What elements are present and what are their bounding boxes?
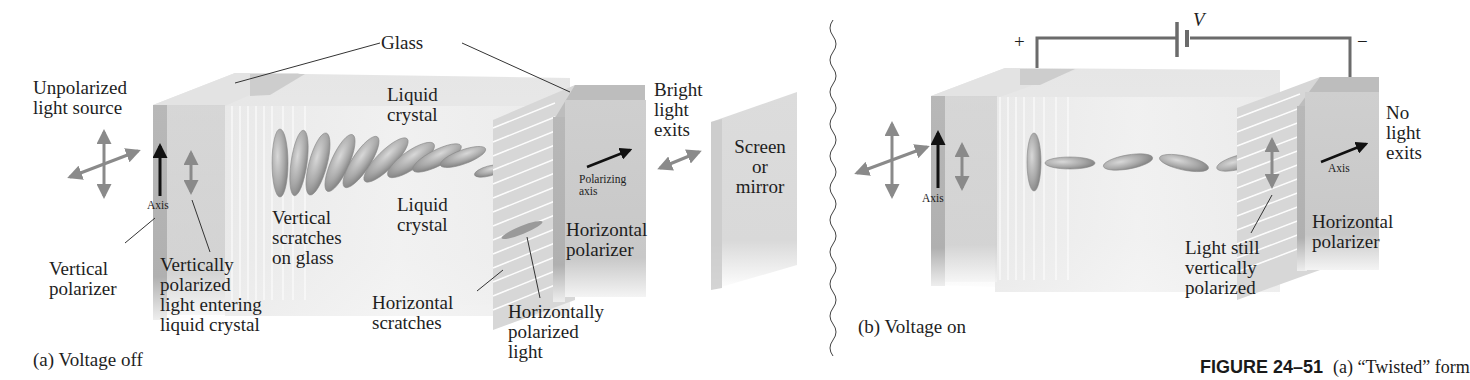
label-voltage: V	[1193, 10, 1205, 30]
figure-caption-text: (a) “Twisted” form	[1333, 357, 1470, 377]
label-plus-terminal: +	[1014, 32, 1025, 52]
vertical-polarizer-b	[931, 96, 997, 286]
label-axis-b-left: Axis	[922, 192, 944, 204]
label-glass: Glass	[381, 33, 423, 53]
label-axis-b-right: Axis	[1328, 162, 1350, 174]
label-horizontal-polarizer-a: Horizontal polarizer	[566, 220, 647, 260]
label-liquid-crystal-middle: Liquid crystal	[397, 195, 448, 235]
label-liquid-crystal-top: Liquid crystal	[387, 85, 438, 125]
figure-number: FIGURE 24–51	[1200, 357, 1323, 377]
label-unpolarized-light-source: Unpolarized light source	[33, 78, 127, 118]
label-vertical-polarizer: Vertical polarizer	[49, 259, 117, 299]
unpolarized-light-icon-b	[857, 124, 927, 196]
label-horizontal-scratches: Horizontal scratches	[372, 293, 453, 333]
label-vertically-polarized-light: Vertically polarized light entering liqu…	[160, 255, 262, 335]
unpolarized-light-icon	[70, 132, 138, 196]
bright-light-arrow-icon	[660, 152, 699, 168]
label-horizontal-polarizer-b: Horizontal polarizer	[1312, 212, 1393, 252]
label-screen-or-mirror: Screen or mirror	[726, 137, 794, 197]
label-no-light-exits: No light exits	[1386, 103, 1422, 163]
label-minus-terminal: −	[1357, 32, 1368, 52]
caption-voltage-off: (a) Voltage off	[33, 350, 143, 370]
label-vertical-scratches: Vertical scratches on glass	[272, 208, 342, 268]
label-polarizing-axis: Polarizing axis	[579, 173, 626, 197]
panel-b	[857, 22, 1379, 300]
label-bright-light-exits: Bright light exits	[654, 80, 703, 140]
figure-caption: FIGURE 24–51 (a) “Twisted” form	[1200, 357, 1470, 378]
caption-voltage-on: (b) Voltage on	[858, 317, 966, 337]
label-axis-a: Axis	[147, 199, 169, 211]
label-light-still-vertically-polarized: Light still vertically polarized	[1185, 238, 1259, 298]
panel-divider	[830, 20, 836, 356]
label-horizontally-polarized-light: Horizontally polarized light	[508, 302, 604, 362]
